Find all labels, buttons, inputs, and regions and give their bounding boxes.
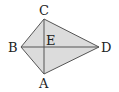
vertex-label-d: D bbox=[101, 40, 111, 55]
kite-diagram: C B D A E bbox=[0, 0, 119, 92]
kite-figure: C B D A E bbox=[0, 0, 119, 92]
vertex-label-b: B bbox=[8, 40, 18, 55]
vertex-label-c: C bbox=[39, 3, 49, 18]
vertex-label-a: A bbox=[38, 76, 49, 91]
intersection-label-e: E bbox=[46, 33, 56, 48]
